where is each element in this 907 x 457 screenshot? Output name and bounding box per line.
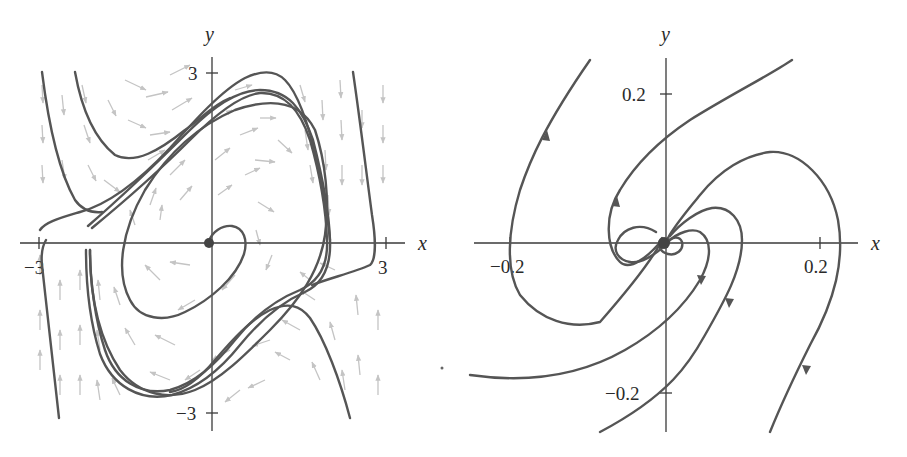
left-y-tick-label-pos: 3 <box>188 63 198 84</box>
arrow-down-icon <box>802 365 811 375</box>
left-x-tick-label-pos: 3 <box>378 257 388 278</box>
left-equilibrium-point <box>204 238 214 248</box>
right-y-axis-label: y <box>659 23 670 46</box>
right-phase-portrait: y x −0.2 0.2 0.2 −0.2 <box>470 23 880 432</box>
left-phase-portrait: y x −3 3 3 −3 <box>20 23 427 431</box>
left-y-tick-label-neg: −3 <box>176 403 196 424</box>
right-x-axis-label: x <box>870 232 880 254</box>
stray-dot <box>441 367 444 370</box>
right-equilibrium-point <box>658 237 670 249</box>
trajectory-inner-arm-2 <box>470 230 709 378</box>
trajectory-spiral <box>90 103 327 395</box>
left-x-axis-label: x <box>417 232 427 254</box>
trajectory-right-arm <box>668 152 840 432</box>
right-x-tick-label-neg: −0.2 <box>490 256 524 277</box>
right-y-tick-label-neg: −0.2 <box>605 383 639 404</box>
figure: y x −3 3 3 −3 <box>0 0 907 457</box>
right-y-tick-label-pos: 0.2 <box>622 84 646 105</box>
trajectory-far-left <box>42 72 102 212</box>
right-x-tick-label-pos: 0.2 <box>804 256 828 277</box>
left-y-axis-label: y <box>203 23 214 46</box>
right-trajectories <box>470 60 840 432</box>
trajectory-bottom-left <box>42 240 59 418</box>
left-trajectories <box>40 72 375 418</box>
arrow-down-icon <box>725 298 734 308</box>
